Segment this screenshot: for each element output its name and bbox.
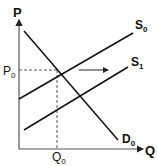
demand-curve-d0 <box>24 31 118 140</box>
x-axis-label: Q <box>145 143 155 158</box>
s1-label: S1 <box>131 55 144 71</box>
supply-curve-s1 <box>24 67 128 130</box>
y-axis-label: P <box>13 5 22 20</box>
supply-curve-s0 <box>19 33 133 99</box>
supply-demand-diagram: P Q S0 S1 D0 P0 Q0 <box>0 0 157 166</box>
p0-label: P0 <box>3 64 16 80</box>
d0-label: D0 <box>122 132 136 148</box>
q0-label: Q0 <box>52 150 66 166</box>
s0-label: S0 <box>135 18 148 34</box>
